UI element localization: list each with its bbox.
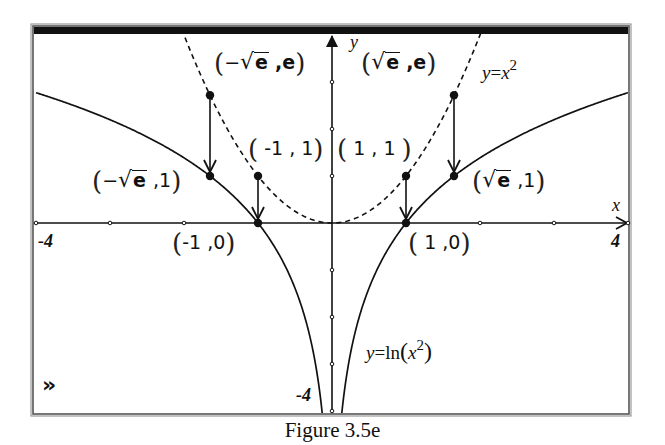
- y-tick: [330, 127, 334, 131]
- data-point: [450, 172, 458, 180]
- y-tick: [330, 268, 334, 272]
- eq-exp: 2: [510, 57, 518, 73]
- data-point: [254, 172, 262, 180]
- eq-exp: 2: [416, 337, 424, 353]
- coord: ,e: [406, 51, 426, 73]
- coord: ,e: [275, 51, 295, 73]
- eq-paren: ): [424, 338, 432, 364]
- y-axis-arrow-icon: [326, 35, 338, 47]
- coord: -1 ,0: [182, 231, 225, 253]
- frame-inner-border: [33, 26, 629, 414]
- coord: 1 ,0: [424, 231, 460, 253]
- figure-caption: Figure 3.5e: [0, 418, 665, 443]
- double-chevron-right-icon[interactable]: »: [42, 374, 56, 396]
- x-tick: [478, 221, 482, 225]
- radicand: e: [254, 52, 269, 72]
- y-tick: [330, 409, 334, 413]
- point-label-neg-sqrt-e-e: (−√e ,e): [214, 50, 305, 76]
- parabola-equation-label: y=x2: [482, 58, 517, 82]
- x-tick: [182, 221, 186, 225]
- y-tick: [330, 80, 334, 84]
- eq-paren: (: [400, 338, 408, 364]
- minus: −: [224, 51, 240, 73]
- y-tick: [330, 174, 334, 178]
- data-point: [402, 172, 410, 180]
- x-min-label: -4: [38, 232, 53, 250]
- minus: −: [102, 169, 118, 191]
- figure: y x -4 4 -4 y=x2 y=ln(x2) (−√e ,e) (√e ,…: [0, 0, 665, 445]
- x-axis-label: x: [612, 196, 620, 214]
- point-label-neg-one-one: ( -1 , 1): [248, 136, 324, 162]
- point-label-pos-sqrt-e-e: (√e ,e): [361, 50, 436, 76]
- coord: -1 , 1: [264, 137, 313, 159]
- y-min-label: -4: [296, 386, 311, 404]
- point-label-neg-sqrt-e-one: (−√e ,1): [92, 168, 181, 194]
- coord: ,1: [517, 169, 535, 191]
- x-tick: [626, 221, 630, 225]
- y-axis-label: y: [350, 33, 358, 51]
- radicand: e: [496, 170, 511, 190]
- y-tick: [330, 315, 334, 319]
- data-point: [402, 219, 410, 227]
- x-tick: [34, 221, 38, 225]
- title-bar: [34, 27, 628, 34]
- radicand: e: [385, 52, 400, 72]
- point-label-pos-one-one: ( 1 , 1 ): [337, 136, 412, 162]
- x-tick: [108, 221, 112, 225]
- axes: [34, 35, 630, 413]
- data-point: [206, 91, 214, 99]
- data-point: [254, 219, 262, 227]
- point-label-pos-one-zero: ( 1 ,0): [408, 230, 471, 256]
- log-equation-label: y=ln(x2): [366, 338, 432, 363]
- point-label-pos-sqrt-e-one: (√e ,1): [472, 168, 545, 194]
- x-tick: [552, 221, 556, 225]
- coord: ,1: [153, 169, 171, 191]
- data-point: [206, 172, 214, 180]
- point-label-neg-one-zero: (-1 ,0): [172, 230, 235, 256]
- y-tick: [330, 362, 334, 366]
- x-max-label: 4: [611, 232, 620, 250]
- eq-sign: =ln: [374, 342, 400, 363]
- eq-sign: =: [490, 62, 501, 83]
- plot-area: [0, 0, 665, 445]
- eq-var: x: [501, 62, 509, 83]
- coord: 1 , 1: [353, 137, 395, 159]
- data-point: [450, 91, 458, 99]
- radicand: e: [132, 170, 147, 190]
